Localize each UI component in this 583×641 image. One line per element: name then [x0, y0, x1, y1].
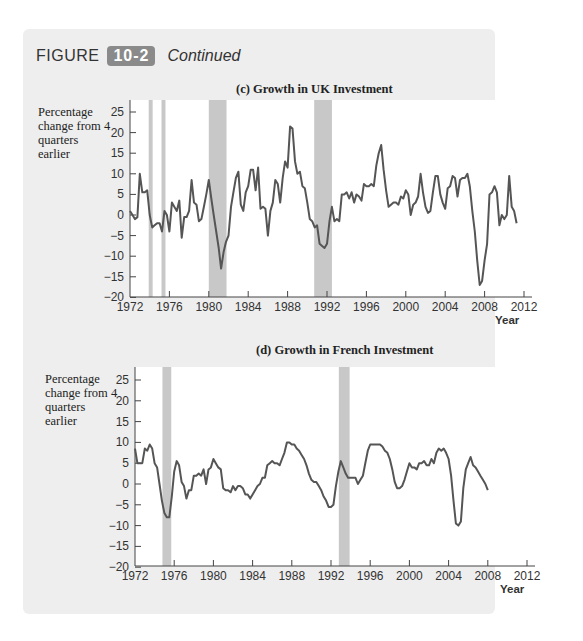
chart-c-x-tick-label: 1984 — [235, 300, 262, 314]
chart-c-y-tick-label: 25 — [111, 105, 125, 119]
chart-c-recession-band — [314, 100, 332, 297]
chart-d-x-tick-label: 1988 — [278, 569, 305, 583]
chart-c-x-tick-label: 2004 — [432, 300, 459, 314]
chart-d-x-tick-label: 1996 — [357, 569, 384, 583]
chart-c-x-tick-label: 1980 — [195, 300, 222, 314]
chart-d-x-tick-label: 2004 — [435, 569, 462, 583]
chart-d-y-tick-label: −10 — [109, 519, 130, 533]
chart-c-y-tick-label: −5 — [110, 229, 124, 243]
chart-c-recession-band — [162, 100, 166, 297]
chart-c-y-tick-label: 10 — [111, 167, 125, 181]
chart-d-y-tick-label: 5 — [122, 456, 129, 470]
chart-c-x-tick-label: 2000 — [392, 300, 419, 314]
chart-c-y-tick-label: 20 — [111, 126, 125, 140]
chart-d-y-tick-label: 15 — [116, 415, 130, 429]
chart-c-x-tick-label: 1996 — [353, 300, 380, 314]
chart-d-y-tick-label: 0 — [122, 477, 129, 491]
chart-d-x-tick-label: 1972 — [122, 569, 149, 583]
chart-c-x-tick-label: 2012 — [511, 300, 538, 314]
chart-d-x-tick-label: 2008 — [474, 569, 501, 583]
chart-d-x-tick-label: 2012 — [514, 569, 541, 583]
chart-d-y-tick-label: 25 — [116, 373, 130, 387]
chart-c-y-tick-label: 0 — [117, 208, 124, 222]
chart-d-y-tick-label: −15 — [109, 539, 130, 553]
chart-c-y-tick-label: −15 — [104, 270, 125, 284]
chart-d-x-tick-label: 1980 — [200, 569, 227, 583]
chart-c-y-tick-label: 15 — [111, 146, 125, 160]
chart-d-x-tick-label: 2000 — [396, 569, 423, 583]
chart-d-y-tick-label: 20 — [116, 394, 130, 408]
chart-c-x-tick-label: 1972 — [117, 300, 144, 314]
chart-d-y-tick-label: 10 — [116, 435, 130, 449]
chart-d-recession-band — [162, 367, 171, 566]
charts-canvas: 2520151050−5−10−15−201972197619801984198… — [0, 0, 583, 641]
chart-c-y-tick-label: −10 — [104, 249, 125, 263]
chart-d-x-tick-label: 1976 — [161, 569, 188, 583]
chart-c-x-tick-label: 1988 — [274, 300, 301, 314]
chart-c-x-tick-label: 1976 — [156, 300, 183, 314]
chart-d-x-tick-label: 1984 — [239, 569, 266, 583]
chart-d-x-tick-label: 1992 — [318, 569, 345, 583]
chart-c-x-tick-label: 1992 — [314, 300, 341, 314]
chart-c-x-tick-label: 2008 — [471, 300, 498, 314]
chart-c-y-tick-label: 5 — [117, 187, 124, 201]
chart-d-y-tick-label: −5 — [115, 498, 129, 512]
chart-c-recession-band — [149, 100, 153, 297]
